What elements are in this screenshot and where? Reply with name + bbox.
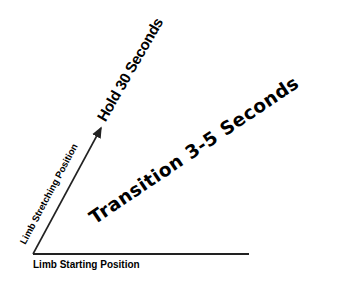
limb-starting-position-label: Limb Starting Position xyxy=(33,259,140,270)
diagram-lines xyxy=(0,0,338,283)
